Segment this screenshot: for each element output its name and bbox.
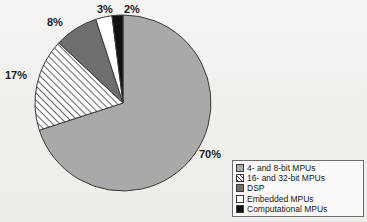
background-bleed-text	[231, 138, 234, 150]
legend-item-label: 4- and 8-bit MPUs	[247, 163, 316, 173]
background-bleed-text	[4, 209, 7, 221]
legend-item[interactable]: 4- and 8-bit MPUs	[236, 163, 360, 173]
legend-swatch-icon	[236, 164, 244, 172]
pie-chart	[34, 14, 212, 192]
legend-swatch-icon	[236, 174, 244, 182]
pie-data-label-16-and-32-bit-mpus: 17%	[5, 69, 27, 81]
background-bleed-text	[231, 124, 234, 136]
pie-data-label-dsp: 8%	[47, 16, 63, 28]
legend-item-label: DSP	[247, 183, 264, 193]
background-bleed-text	[4, 183, 7, 195]
pie-chart-svg	[34, 14, 212, 192]
legend-item-label: Computational MPUs	[247, 204, 327, 214]
legend-item[interactable]: 16- and 32-bit MPUs	[236, 173, 360, 183]
legend-swatch-icon	[236, 195, 244, 203]
background-bleed-text	[4, 196, 7, 208]
pie-data-label-embedded-mpus: 3%	[97, 3, 113, 15]
chart-legend: 4- and 8-bit MPUs16- and 32-bit MPUsDSPE…	[232, 160, 364, 217]
legend-item[interactable]: Computational MPUs	[236, 204, 360, 214]
legend-swatch-icon	[236, 205, 244, 213]
legend-item-label: Embedded MPUs	[247, 194, 314, 204]
background-bleed-text	[231, 96, 234, 108]
legend-item-label: 16- and 32-bit MPUs	[247, 173, 325, 183]
pie-slice-group	[35, 15, 211, 191]
legend-item[interactable]: Embedded MPUs	[236, 194, 360, 204]
background-bleed-text	[236, 2, 240, 18]
pie-data-label-computational-mpus: 2%	[124, 3, 140, 15]
scanned-page-canvas: 70% 17% 8% 3% 2% 4- and 8-bit MPUs16- an…	[0, 0, 367, 222]
legend-swatch-icon	[236, 184, 244, 192]
background-bleed-text	[231, 110, 234, 122]
legend-item[interactable]: DSP	[236, 183, 360, 193]
pie-data-label-4-and-8-bit-mpus: 70%	[199, 148, 221, 160]
background-bleed-text	[238, 74, 241, 86]
background-bleed-text	[232, 40, 236, 57]
